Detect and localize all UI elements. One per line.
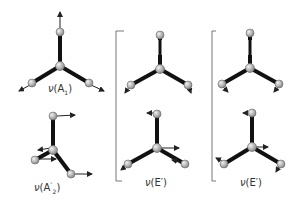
label-e2: ν(E′) xyxy=(240,177,262,188)
central-atom xyxy=(248,143,257,152)
displacement-arrow xyxy=(19,85,30,91)
atom xyxy=(127,81,135,89)
atom xyxy=(246,29,254,37)
molecule-a2pp xyxy=(31,112,92,178)
atom xyxy=(181,160,189,168)
atom xyxy=(248,109,256,117)
atom xyxy=(49,112,57,120)
displacement-arrow xyxy=(57,115,75,116)
atom xyxy=(28,79,36,87)
atom xyxy=(85,79,93,87)
bracket-e2 xyxy=(212,31,216,181)
molecule-e1-b xyxy=(121,110,189,170)
molecule-e2-b xyxy=(216,109,285,172)
atom xyxy=(56,28,64,36)
diagram-canvas xyxy=(0,0,300,204)
atom xyxy=(31,156,39,164)
label-e1: ν(E′) xyxy=(145,177,167,188)
atom xyxy=(277,160,285,168)
central-atom xyxy=(246,64,255,73)
label-a2pp: ν(A″2) xyxy=(34,181,60,195)
label-a1: ν(A1) xyxy=(48,83,72,96)
atom xyxy=(218,80,226,88)
displacement-arrow xyxy=(276,167,279,172)
central-atom xyxy=(49,146,58,155)
displacement-arrow xyxy=(91,85,104,91)
molecule-a1 xyxy=(19,12,104,91)
atom xyxy=(67,170,75,178)
bracket-e1 xyxy=(116,31,124,181)
central-atom xyxy=(156,65,165,74)
central-atom xyxy=(153,144,162,153)
central-atom xyxy=(56,62,65,71)
molecule-e2-a xyxy=(218,29,283,92)
molecule-e1-a xyxy=(125,31,192,93)
atom xyxy=(220,160,228,168)
displacement-arrow xyxy=(216,158,222,161)
atom xyxy=(153,110,161,118)
atom xyxy=(124,160,132,168)
atom xyxy=(275,80,283,88)
atom xyxy=(184,81,192,89)
atom xyxy=(156,31,164,39)
